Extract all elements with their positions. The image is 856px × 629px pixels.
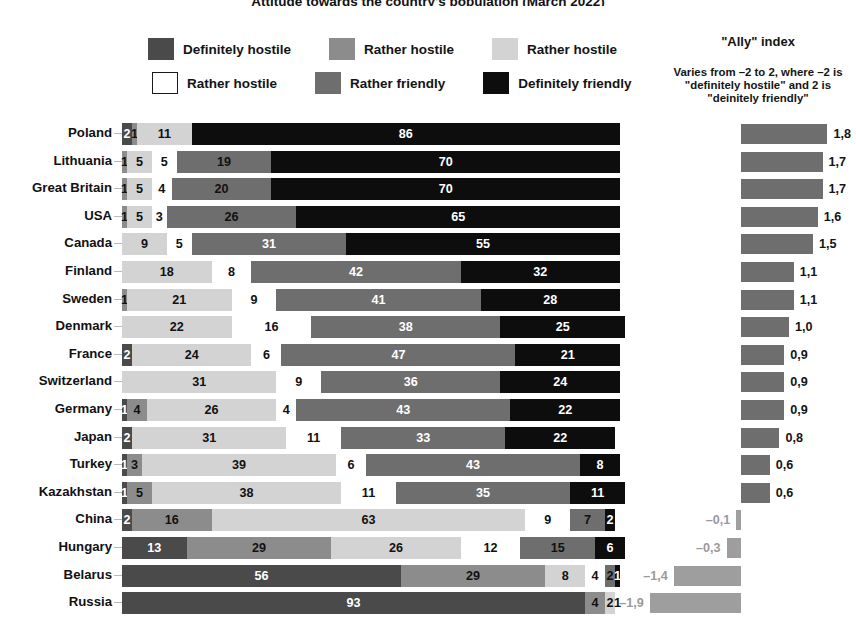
bar-segment[interactable]: 24 [132, 344, 252, 366]
bar-segment[interactable]: 13 [122, 537, 187, 559]
bar-segment[interactable]: 31 [132, 427, 286, 449]
ally-index-bar[interactable] [741, 455, 770, 475]
bar-segment[interactable]: 38 [311, 316, 500, 338]
bar-segment[interactable]: 11 [341, 482, 396, 504]
bar-segment[interactable]: 22 [510, 399, 620, 421]
ally-index-bar[interactable] [674, 566, 741, 586]
bar-segment[interactable]: 21 [127, 289, 232, 311]
bar-segment[interactable]: 7 [570, 509, 605, 531]
bar-segment[interactable]: 55 [346, 233, 620, 255]
bar-segment[interactable]: 70 [271, 151, 620, 173]
ally-index-bar[interactable] [741, 400, 784, 420]
bar-segment[interactable]: 43 [296, 399, 510, 421]
bar-segment[interactable]: 5 [167, 233, 192, 255]
bar-segment[interactable]: 4 [276, 399, 296, 421]
ally-index-bar[interactable] [741, 345, 784, 365]
bar-segment[interactable]: 26 [331, 537, 460, 559]
bar-segment[interactable]: 38 [152, 482, 341, 504]
legend-item[interactable]: Definitely friendly [483, 72, 631, 94]
legend-item[interactable]: Rather friendly [315, 72, 445, 94]
bar-segment[interactable]: 8 [212, 261, 252, 283]
bar-segment[interactable]: 63 [212, 509, 526, 531]
ally-index-bar[interactable] [741, 317, 789, 337]
bar-segment[interactable]: 8 [545, 565, 585, 587]
bar-segment[interactable]: 15 [520, 537, 595, 559]
bar-segment[interactable]: 56 [122, 565, 401, 587]
bar-segment[interactable]: 32 [461, 261, 620, 283]
bar-segment[interactable]: 31 [122, 371, 276, 393]
bar-segment[interactable]: 36 [321, 371, 500, 393]
bar-segment[interactable]: 3 [152, 206, 167, 228]
bar-segment[interactable]: 20 [172, 178, 272, 200]
bar-segment[interactable]: 25 [500, 316, 625, 338]
bar-segment[interactable]: 1 [615, 565, 620, 587]
bar-segment[interactable]: 93 [122, 592, 585, 614]
bar-segment[interactable]: 41 [276, 289, 480, 311]
bar-segment[interactable]: 5 [127, 178, 152, 200]
bar-segment[interactable]: 4 [585, 565, 605, 587]
ally-index-bar[interactable] [741, 428, 779, 448]
bar-segment[interactable]: 39 [142, 454, 336, 476]
bar-segment[interactable]: 5 [152, 151, 177, 173]
bar-segment[interactable]: 9 [122, 233, 167, 255]
bar-segment[interactable]: 65 [296, 206, 620, 228]
bar-segment[interactable]: 9 [525, 509, 570, 531]
bar-segment[interactable]: 2 [122, 427, 132, 449]
bar-segment[interactable]: 43 [366, 454, 580, 476]
bar-segment[interactable]: 21 [515, 344, 620, 366]
bar-segment[interactable]: 2 [605, 565, 615, 587]
ally-index-bar[interactable] [741, 152, 823, 172]
bar-segment[interactable]: 16 [232, 316, 312, 338]
bar-segment[interactable]: 2 [605, 509, 615, 531]
bar-segment[interactable]: 5 [127, 206, 152, 228]
bar-segment[interactable]: 11 [286, 427, 341, 449]
bar-segment[interactable]: 5 [127, 482, 152, 504]
legend-item[interactable]: Rather hostile [152, 72, 277, 94]
bar-segment[interactable]: 18 [122, 261, 212, 283]
bar-segment[interactable]: 19 [177, 151, 272, 173]
bar-segment[interactable]: 31 [192, 233, 346, 255]
ally-index-bar[interactable] [741, 372, 784, 392]
bar-segment[interactable]: 42 [251, 261, 460, 283]
bar-segment[interactable]: 5 [127, 151, 152, 173]
bar-segment[interactable]: 9 [276, 371, 321, 393]
ally-index-bar[interactable] [741, 262, 794, 282]
bar-segment[interactable]: 9 [232, 289, 277, 311]
bar-segment[interactable]: 2 [122, 344, 132, 366]
bar-segment[interactable]: 11 [570, 482, 625, 504]
bar-segment[interactable]: 6 [595, 537, 625, 559]
bar-segment[interactable]: 24 [500, 371, 620, 393]
legend-item[interactable]: Rather hostile [492, 38, 617, 60]
ally-index-bar[interactable] [741, 179, 823, 199]
bar-segment[interactable]: 4 [152, 178, 172, 200]
bar-segment[interactable]: 47 [281, 344, 515, 366]
bar-segment[interactable]: 26 [147, 399, 276, 421]
ally-index-bar[interactable] [736, 510, 741, 530]
bar-segment[interactable]: 29 [401, 565, 545, 587]
bar-segment[interactable]: 6 [336, 454, 366, 476]
ally-index-bar[interactable] [741, 483, 770, 503]
bar-segment[interactable]: 86 [192, 123, 620, 145]
bar-segment[interactable]: 4 [585, 592, 605, 614]
bar-segment[interactable]: 8 [580, 454, 620, 476]
bar-segment[interactable]: 6 [251, 344, 281, 366]
bar-segment[interactable]: 26 [167, 206, 296, 228]
bar-segment[interactable]: 3 [127, 454, 142, 476]
ally-index-bar[interactable] [741, 207, 818, 227]
bar-segment[interactable]: 12 [461, 537, 521, 559]
ally-index-bar[interactable] [650, 593, 741, 613]
bar-segment[interactable]: 70 [271, 178, 620, 200]
bar-segment[interactable]: 2 [122, 509, 132, 531]
bar-segment[interactable]: 29 [187, 537, 331, 559]
bar-segment[interactable]: 22 [505, 427, 615, 449]
bar-segment[interactable]: 16 [132, 509, 212, 531]
ally-index-bar[interactable] [741, 290, 794, 310]
legend-item[interactable]: Definitely hostile [148, 38, 291, 60]
ally-index-bar[interactable] [741, 234, 813, 254]
ally-index-bar[interactable] [741, 124, 827, 144]
bar-segment[interactable]: 2 [122, 123, 132, 145]
bar-segment[interactable]: 22 [122, 316, 232, 338]
bar-segment[interactable]: 11 [137, 123, 192, 145]
bar-segment[interactable]: 35 [396, 482, 570, 504]
bar-segment[interactable]: 33 [341, 427, 505, 449]
